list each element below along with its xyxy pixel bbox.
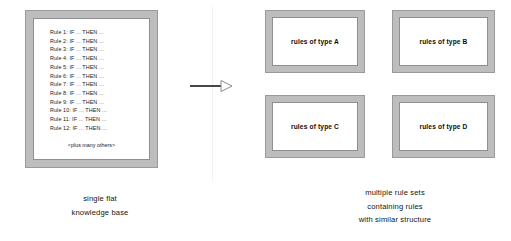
rule-set-label-b: rules of type B — [419, 38, 467, 45]
rule-item: Rule 1: IF ... THEN ... — [34, 28, 149, 37]
rule-item: Rule 10: IF ... THEN ... — [34, 106, 149, 115]
arrow-icon — [190, 78, 234, 94]
rule-item: Rule 5: IF ... THEN ... — [34, 63, 149, 72]
rule-set-label-a: rules of type A — [291, 38, 339, 45]
caption-right-line-3: with similar structure — [310, 213, 480, 227]
rule-item: Rule 11: IF ... THEN ... — [34, 115, 149, 124]
rule-item: Rule 7: IF ... THEN ... — [34, 80, 149, 89]
rule-item: Rule 6: IF ... THEN ... — [34, 72, 149, 81]
rule-set-interior-a: rules of type A — [272, 17, 358, 66]
rule-set-interior-b: rules of type B — [399, 17, 488, 66]
knowledge-base-interior: Rule 1: IF ... THEN ... Rule 2: IF ... T… — [33, 18, 150, 160]
rule-set-box-d: rules of type D — [392, 95, 495, 158]
caption-left-line-1: single flat — [30, 192, 170, 206]
transformation-arrow — [190, 78, 234, 94]
rule-set-interior-d: rules of type D — [399, 102, 488, 151]
rule-item: Rule 3: IF ... THEN ... — [34, 45, 149, 54]
caption-left-line-2: knowledge base — [30, 206, 170, 220]
rule-set-interior-c: rules of type C — [272, 102, 358, 151]
caption-right: multiple rule sets containing rules with… — [310, 186, 480, 227]
knowledge-base-panel: Rule 1: IF ... THEN ... Rule 2: IF ... T… — [25, 10, 158, 168]
rule-set-box-c: rules of type C — [265, 95, 365, 158]
rule-set-label-c: rules of type C — [291, 123, 339, 130]
caption-right-line-1: multiple rule sets — [310, 186, 480, 200]
rule-item: Rule 2: IF ... THEN ... — [34, 37, 149, 46]
rule-item: Rule 12: IF ... THEN ... — [34, 124, 149, 133]
rule-set-box-a: rules of type A — [265, 10, 365, 73]
rule-item: Rule 9: IF ... THEN ... — [34, 98, 149, 107]
rule-item: Rule 4: IF ... THEN ... — [34, 54, 149, 63]
caption-right-line-2: containing rules — [310, 200, 480, 214]
caption-left: single flat knowledge base — [30, 192, 170, 219]
rule-set-label-d: rules of type D — [419, 123, 467, 130]
rule-set-box-b: rules of type B — [392, 10, 495, 73]
plus-many-others-note: <plus many others> — [34, 141, 149, 150]
rule-item: Rule 8: IF ... THEN ... — [34, 89, 149, 98]
diagram-canvas: Rule 1: IF ... THEN ... Rule 2: IF ... T… — [0, 0, 511, 241]
rule-list: Rule 1: IF ... THEN ... Rule 2: IF ... T… — [34, 28, 149, 132]
